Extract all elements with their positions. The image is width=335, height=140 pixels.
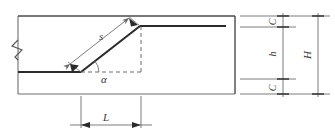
technical-diagram: s α L — [0, 0, 335, 140]
L-arrowhead-right — [132, 122, 141, 128]
outer-dimension-column — [312, 13, 324, 97]
slope-length-label: s — [99, 30, 103, 42]
freeboard-top-label: C — [267, 18, 278, 25]
channel-bed-profile — [18, 26, 226, 72]
inner-dimension-column — [277, 13, 289, 97]
zigzag-break-icon — [12, 40, 22, 60]
main-section-outline — [18, 16, 235, 94]
water-depth-label: h — [267, 52, 278, 57]
diagram-canvas: s α L — [0, 0, 335, 140]
slope-angle-label: α — [101, 73, 107, 85]
freeboard-bottom-label: C — [267, 84, 278, 91]
arrowhead-upper — [129, 18, 138, 27]
horizontal-run-dimension — [70, 96, 152, 128]
slope-arrowheads — [70, 18, 138, 73]
slope-length-dimension — [68, 16, 140, 72]
L-arrowhead-left — [81, 122, 90, 128]
right-witness-lines — [240, 16, 330, 94]
horizontal-run-label: L — [102, 111, 109, 123]
total-height-label: H — [301, 50, 313, 60]
